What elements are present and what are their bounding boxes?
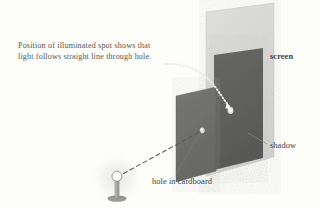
caption-line-1: Position of illuminated spot shows that: [18, 41, 150, 50]
caption-line-2: light follows straight line through hole…: [18, 52, 151, 63]
figure-container: Position of illuminated spot shows that …: [0, 0, 320, 208]
label-shadow: shadow: [270, 140, 296, 151]
label-hole-in-cardboard: hole in cardboard: [152, 176, 212, 187]
caption-text: Position of illuminated spot shows that …: [18, 41, 151, 62]
label-screen: screen: [270, 51, 293, 62]
shadow-region: [214, 48, 263, 170]
